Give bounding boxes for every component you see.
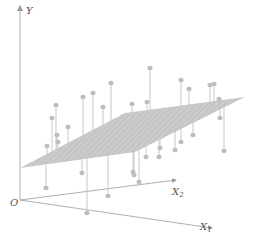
data-point (44, 144, 49, 148)
x2-subscript: 2 (178, 191, 184, 199)
data-point (186, 87, 191, 91)
data-point (131, 173, 136, 177)
x2-axis-label: X2 (171, 186, 184, 199)
x2-axis (20, 180, 176, 200)
data-point (211, 82, 216, 86)
data-point (143, 155, 148, 159)
data-point (49, 116, 54, 120)
origin-label: O (10, 197, 18, 208)
data-point (216, 97, 221, 101)
data-point (55, 140, 60, 144)
data-point (43, 186, 48, 190)
data-point (80, 95, 85, 99)
data-point (84, 211, 89, 215)
data-point (100, 105, 105, 109)
data-point (221, 149, 226, 153)
data-point (90, 91, 95, 95)
data-point (65, 125, 70, 129)
data-point (157, 146, 162, 150)
x1-subscript: 1 (207, 226, 211, 234)
x1-axis (20, 200, 212, 228)
data-point (79, 171, 84, 175)
data-point (136, 180, 141, 184)
data-point (54, 133, 59, 137)
data-point (178, 78, 183, 82)
y-axis-label: Y (26, 5, 34, 16)
data-point (53, 103, 58, 107)
data-point (147, 66, 152, 70)
data-point (108, 81, 113, 85)
x1-axis-label: X1 (199, 221, 212, 234)
data-point (156, 155, 161, 159)
data-point (105, 194, 110, 198)
figure-canvas: Y O X2 X1 (0, 0, 261, 244)
data-point (217, 116, 222, 120)
regression-plane-figure: Y O X2 X1 (0, 0, 261, 244)
data-point (172, 148, 177, 152)
data-point (178, 140, 183, 144)
data-point (129, 102, 134, 106)
data-point (144, 100, 149, 104)
data-point (190, 133, 195, 137)
